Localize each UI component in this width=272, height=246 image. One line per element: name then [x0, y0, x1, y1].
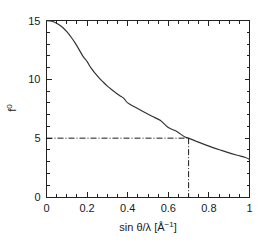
x-tick-label: 0.8 [201, 202, 216, 214]
y-tick-label: 5 [34, 132, 40, 144]
x-axis-title: sin θ/λ [Å−1] [119, 220, 176, 233]
y-tick-label: 15 [28, 15, 40, 27]
y-tick-label: 0 [34, 191, 40, 203]
scattering-factor-chart: 00.20.40.60.81 051015 sin θ/λ [Å−1] f0 [0, 0, 272, 246]
y-title-exponent: 0 [5, 104, 14, 109]
y-axis-tick-labels: 051015 [28, 15, 40, 204]
y-tick-label: 10 [28, 73, 40, 85]
x-title-unit-close: ] [174, 221, 177, 233]
x-tick-label: 0.4 [120, 202, 135, 214]
svg-text:sin θ/λ [Å−1]: sin θ/λ [Å−1] [119, 220, 176, 233]
x-tick-label: 0.2 [79, 202, 94, 214]
x-title-sin: sin [119, 221, 133, 233]
y-axis-title: f0 [5, 104, 18, 112]
x-tick-label: 0.6 [161, 202, 176, 214]
x-axis-tick-labels: 00.20.40.60.81 [43, 202, 252, 214]
x-tick-label: 0 [43, 202, 49, 214]
x-title-unit-open: [Å [154, 221, 165, 233]
figure-container: 00.20.40.60.81 051015 sin θ/λ [Å−1] f0 [0, 0, 272, 246]
annotation-guides-layer [47, 138, 189, 197]
x-tick-label: 1 [246, 202, 252, 214]
svg-text:f0: f0 [5, 104, 18, 112]
